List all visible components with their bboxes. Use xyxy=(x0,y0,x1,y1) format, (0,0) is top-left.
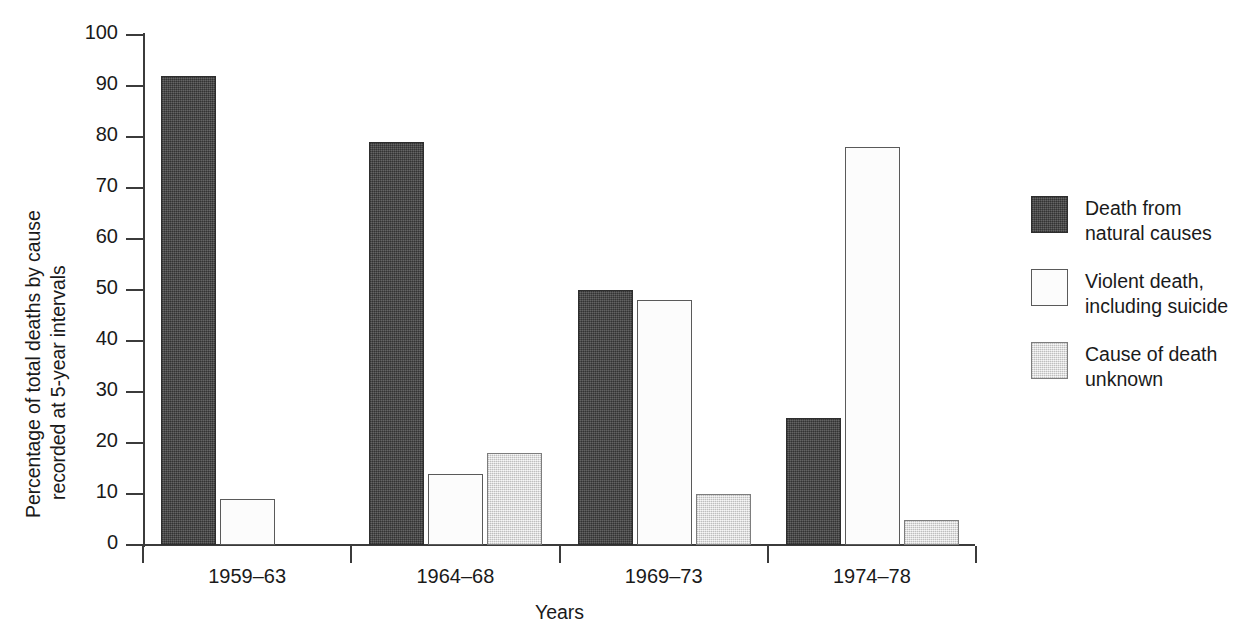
x-axis-tick xyxy=(559,546,561,563)
y-axis-tick xyxy=(126,34,143,36)
legend-item[interactable]: Violent death,including suicide xyxy=(1031,269,1247,319)
y-axis-title-line-1: Percentage of total deaths by cause xyxy=(22,210,45,518)
bar[interactable] xyxy=(904,520,959,546)
legend-item-label: Violent death,including suicide xyxy=(1085,269,1228,319)
bar[interactable] xyxy=(578,290,633,545)
y-axis-tick-label: 100 xyxy=(60,21,118,44)
y-axis-tick xyxy=(126,136,143,138)
y-axis-tick xyxy=(126,544,143,546)
bar[interactable] xyxy=(696,494,751,545)
x-axis-category-label: 1969–73 xyxy=(560,565,768,588)
y-axis-tick-label: 90 xyxy=(60,72,118,95)
plot-area xyxy=(143,35,976,545)
legend-item[interactable]: Death fromnatural causes xyxy=(1031,196,1247,246)
y-axis-title: Percentage of total deaths by cause reco… xyxy=(0,0,60,560)
legend-item-label-line-2: natural causes xyxy=(1085,221,1212,246)
y-axis-tick xyxy=(126,187,143,189)
legend-item-label-line-1: Cause of death xyxy=(1085,342,1217,367)
x-axis-tick xyxy=(767,546,769,563)
y-axis-tick-label: 30 xyxy=(60,378,118,401)
y-axis-tick xyxy=(126,442,143,444)
y-axis-tick xyxy=(126,289,143,291)
legend-swatch-icon xyxy=(1031,196,1068,233)
y-axis-tick-label: 80 xyxy=(60,123,118,146)
legend-item[interactable]: Cause of deathunknown xyxy=(1031,342,1247,392)
x-axis-tick xyxy=(350,546,352,563)
y-axis-tick-label: 40 xyxy=(60,327,118,350)
legend: Death fromnatural causesViolent death,in… xyxy=(1031,196,1247,415)
y-axis-tick xyxy=(126,340,143,342)
y-axis-tick-label: 50 xyxy=(60,276,118,299)
y-axis-tick xyxy=(126,85,143,87)
legend-item-label-line-1: Violent death, xyxy=(1085,269,1228,294)
y-axis-tick-label: 70 xyxy=(60,174,118,197)
legend-item-label-line-2: including suicide xyxy=(1085,294,1228,319)
x-axis-tick xyxy=(142,546,144,563)
bar[interactable] xyxy=(786,418,841,546)
bar[interactable] xyxy=(637,300,692,545)
x-axis-category-label: 1959–63 xyxy=(143,565,351,588)
y-axis-tick-label: 0 xyxy=(60,531,118,554)
bar[interactable] xyxy=(845,147,900,545)
x-axis-category-label: 1964–68 xyxy=(351,565,559,588)
bar[interactable] xyxy=(428,474,483,545)
legend-item-label-line-1: Death from xyxy=(1085,196,1212,221)
x-axis-category-label: 1974–78 xyxy=(768,565,976,588)
x-axis-title: Years xyxy=(143,601,976,624)
legend-item-label: Cause of deathunknown xyxy=(1085,342,1217,392)
bar[interactable] xyxy=(161,76,216,545)
y-axis-tick xyxy=(126,391,143,393)
x-axis-tick xyxy=(975,546,977,563)
y-axis-tick xyxy=(126,238,143,240)
y-axis-tick-label: 10 xyxy=(60,480,118,503)
legend-item-label-line-2: unknown xyxy=(1085,367,1217,392)
y-axis-tick xyxy=(126,493,143,495)
legend-swatch-icon xyxy=(1031,342,1068,379)
bar-chart-figure: Percentage of total deaths by cause reco… xyxy=(0,0,1247,630)
legend-item-label: Death fromnatural causes xyxy=(1085,196,1212,246)
legend-swatch-icon xyxy=(1031,269,1068,306)
bar[interactable] xyxy=(220,499,275,545)
y-axis-tick-label: 20 xyxy=(60,429,118,452)
bar[interactable] xyxy=(369,142,424,545)
y-axis-tick-label: 60 xyxy=(60,225,118,248)
bar[interactable] xyxy=(487,453,542,545)
